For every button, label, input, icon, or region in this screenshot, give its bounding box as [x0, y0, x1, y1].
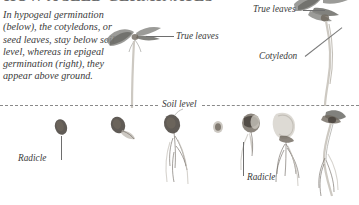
leader-line-radicle-left	[61, 136, 62, 160]
epigeal-seedling-above-ground	[292, 0, 358, 106]
soil-level-line-left	[0, 105, 158, 106]
seed-germination-figure: HOW A SEED GERMINATES In hypogeal germin…	[0, 0, 359, 205]
hypogeal-stage-2-seed-with-radicle	[108, 116, 142, 150]
label-true-leaves-right: True leaves	[253, 4, 296, 14]
epigeal-stage-1-seed	[211, 119, 227, 137]
epigeal-stage-4-seedling-with-roots	[310, 108, 358, 200]
leader-line-true-leaves-right	[303, 10, 325, 11]
label-radicle-right: Radicle	[247, 172, 275, 182]
label-cotyledon: Cotyledon	[259, 51, 297, 61]
label-radicle-left: Radicle	[18, 153, 46, 163]
leader-line-radicle-right	[243, 142, 244, 176]
figure-heading: HOW A SEED GERMINATES	[4, 0, 224, 4]
soil-level-line-right	[202, 105, 359, 106]
label-true-leaves-left: True leaves	[176, 31, 219, 41]
hypogeal-stage-1-seed	[52, 118, 72, 140]
leader-line-true-leaves-left	[146, 36, 174, 37]
label-soil-level: Soil level	[159, 99, 200, 109]
hypogeal-seedling-above-ground	[104, 22, 166, 108]
hypogeal-stage-3-seed-with-roots-and-shoot	[160, 112, 204, 202]
